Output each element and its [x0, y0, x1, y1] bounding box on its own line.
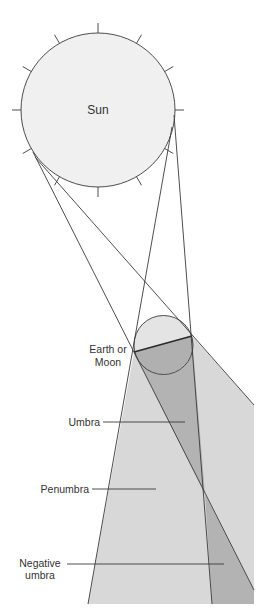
- sun: Sun: [12, 23, 184, 197]
- eclipse-shadow-diagram: Sun Earth or Moon Umbra Penumbra Negativ…: [0, 0, 268, 613]
- negative-umbra-label-line1: Negative: [19, 557, 61, 569]
- body-label-line1: Earth or: [89, 343, 127, 355]
- body-label-line2: Moon: [95, 356, 121, 368]
- umbra-label: Umbra: [68, 416, 100, 428]
- earth-or-moon: [134, 316, 193, 375]
- sun-label: Sun: [87, 103, 108, 117]
- penumbra-label: Penumbra: [41, 483, 90, 495]
- negative-umbra-label-line2: umbra: [25, 569, 55, 581]
